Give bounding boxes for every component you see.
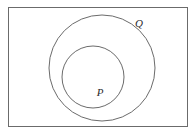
- set-diagram-canvas: Q P: [0, 0, 196, 137]
- set-label-q: Q: [135, 17, 143, 29]
- set-diagram: Q P: [0, 0, 196, 137]
- set-label-p: P: [96, 86, 104, 98]
- universal-set-rectangle: [9, 8, 188, 127]
